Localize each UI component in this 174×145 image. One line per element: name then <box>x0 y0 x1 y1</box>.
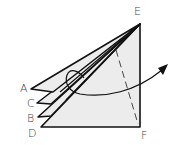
label-a: A <box>20 82 28 95</box>
label-c: C <box>27 97 35 110</box>
label-d: D <box>28 127 36 140</box>
arrowhead-icon <box>158 64 168 75</box>
label-b: B <box>27 112 34 125</box>
label-e: E <box>134 5 141 18</box>
label-f: F <box>141 129 147 142</box>
origami-diagram: E F A C B D <box>0 0 174 145</box>
